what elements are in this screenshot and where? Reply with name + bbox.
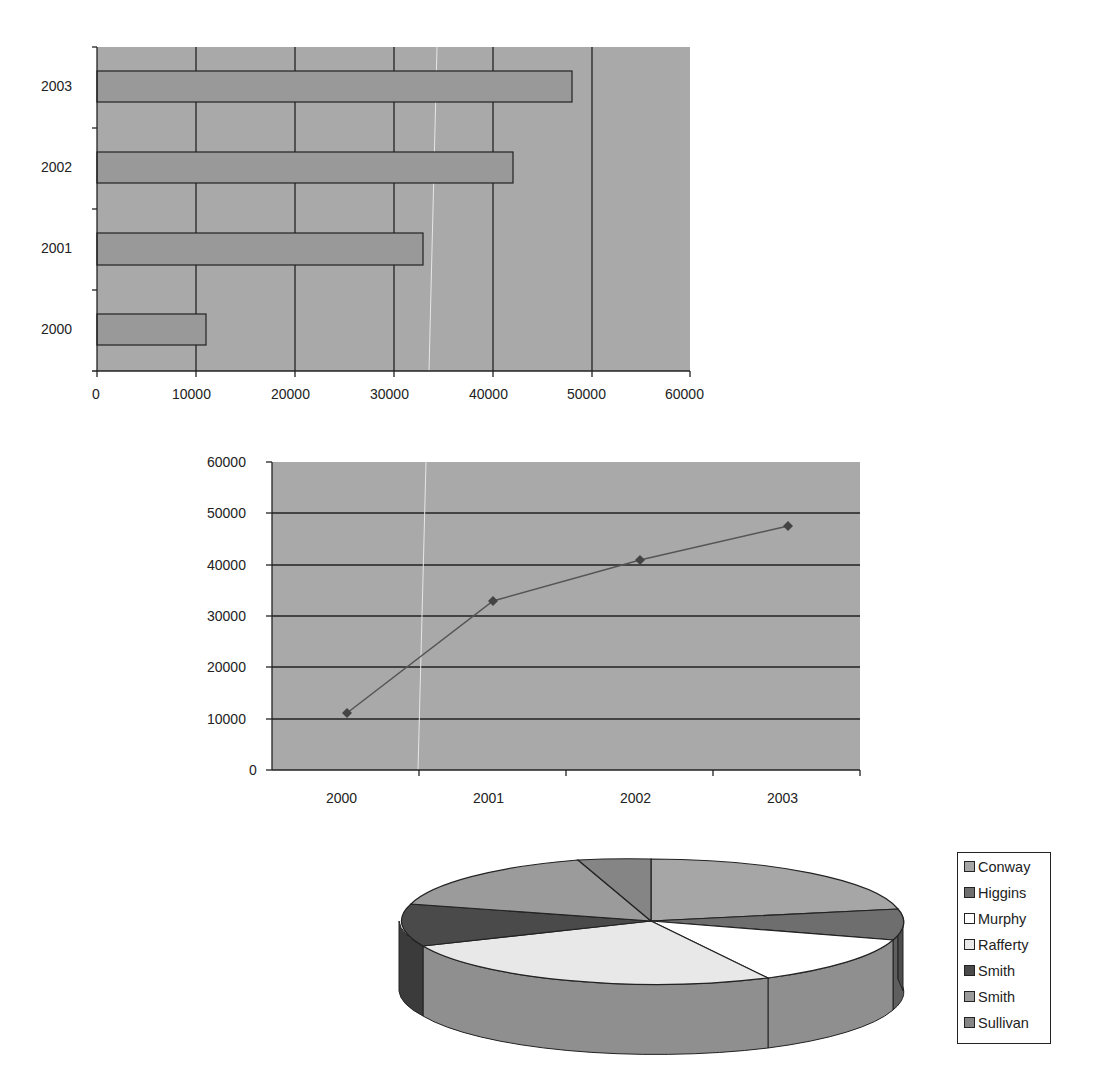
- legend-swatch: [964, 939, 975, 950]
- legend-swatch: [964, 965, 975, 976]
- legend-label: Sullivan: [978, 1015, 1029, 1031]
- legend-item: Conway: [964, 857, 1030, 877]
- legend-label: Smith: [978, 963, 1015, 979]
- legend-item: Higgins: [964, 883, 1026, 903]
- pie-top: [401, 859, 903, 985]
- legend-item: Sullivan: [964, 1013, 1029, 1033]
- legend-label: Conway: [978, 859, 1030, 875]
- legend-swatch: [964, 887, 975, 898]
- legend-label: Rafferty: [978, 937, 1029, 953]
- legend-label: Higgins: [978, 885, 1026, 901]
- legend-swatch: [964, 913, 975, 924]
- legend-label: Murphy: [978, 911, 1026, 927]
- legend-item: Murphy: [964, 909, 1026, 929]
- pie-legend: Conway Higgins Murphy Rafferty Smith Smi…: [957, 852, 1051, 1044]
- pie-chart-graphics: [0, 0, 1093, 1087]
- legend-item: Smith: [964, 961, 1015, 981]
- legend-item: Rafferty: [964, 935, 1029, 955]
- legend-swatch: [964, 1017, 975, 1028]
- legend-swatch: [964, 991, 975, 1002]
- legend-swatch: [964, 861, 975, 872]
- legend-item: Smith: [964, 987, 1015, 1007]
- legend-label: Smith: [978, 989, 1015, 1005]
